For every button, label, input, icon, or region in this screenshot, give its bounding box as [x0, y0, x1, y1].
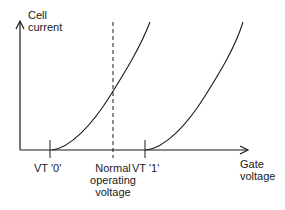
vt0-curve — [52, 22, 150, 150]
vt0-label: VT '0' — [34, 162, 61, 174]
vt1-label: VT '1' — [132, 162, 159, 174]
normal-label-line2: operating — [83, 174, 143, 186]
x-axis-label-line2: voltage — [240, 170, 275, 182]
cell-current-diagram: Cell current VT '0' Normal operating vol… — [0, 0, 285, 210]
x-axis-label-line1: Gate — [240, 158, 275, 170]
y-axis-label-line2: current — [28, 21, 62, 33]
vt1-curve — [146, 22, 243, 150]
x-axis-label: Gate voltage — [240, 158, 275, 182]
y-axis-label-line1: Cell — [28, 9, 62, 21]
y-axis-label: Cell current — [28, 9, 62, 33]
normal-label-line3: voltage — [83, 186, 143, 198]
